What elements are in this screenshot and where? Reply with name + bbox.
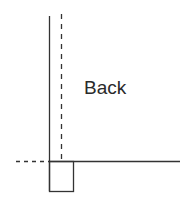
back-label: Back xyxy=(84,78,126,97)
bottom-rectangle xyxy=(50,162,74,192)
diagram-canvas xyxy=(0,0,195,205)
